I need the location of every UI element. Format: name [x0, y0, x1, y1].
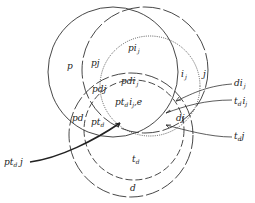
label-i-j: ij [181, 69, 187, 81]
callout-label-di-j: dij [234, 78, 246, 90]
label-pi-j: pij [128, 43, 140, 55]
callout-label-pt-d-j: ptd j [4, 157, 23, 168]
label-pj: pj [91, 58, 100, 68]
circle-i [100, 36, 200, 136]
label-pdj: pdj [92, 84, 107, 94]
callout-label-t-d-i-j: tdij [234, 96, 247, 108]
label-pdi-j: pdij [121, 76, 138, 88]
label-t-d: td [132, 154, 140, 165]
label-pt-d-i-j-e: ptdij,e [115, 97, 142, 109]
circle-p [48, 7, 178, 137]
label-pd: pd [72, 113, 84, 123]
arrowhead-icon [166, 110, 171, 113]
label-pt-d: ptd [91, 117, 104, 128]
label-j: j [201, 69, 206, 79]
circle-d [69, 73, 193, 197]
callout-arrow-pt-d-j [30, 123, 120, 162]
callout-arrow-t-d-j [166, 125, 232, 137]
label-d: d [130, 183, 136, 193]
label-dj: dj [176, 113, 185, 123]
callout-label-t-d-j: tdj [234, 131, 244, 142]
venn-diagram: p pj pij ij j pdij pdj ptdij,e pd ptd dj… [0, 0, 255, 203]
label-p: p [67, 61, 73, 71]
circle-t-d [84, 80, 184, 180]
